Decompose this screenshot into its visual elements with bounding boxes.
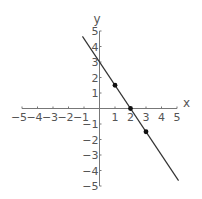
y-tick-label: −2: [82, 134, 98, 147]
y-tick-label: 1: [92, 87, 99, 100]
x-tick-label: −5: [11, 111, 27, 124]
y-tick-label: 5: [92, 25, 99, 38]
y-axis-label: y: [94, 12, 101, 26]
x-tick-label: 4: [158, 111, 165, 124]
y-tick-label: −5: [82, 180, 98, 193]
data-point: [113, 83, 118, 88]
x-tick-label: 5: [174, 111, 181, 124]
y-tick-label: −3: [82, 149, 98, 162]
data-point: [128, 106, 133, 111]
x-tick-label: −4: [26, 111, 42, 124]
line-chart: −5−4−3−2−112345−5−4−3−2−112345 x y: [0, 0, 202, 199]
x-tick-label: 1: [112, 111, 119, 124]
axes: [22, 31, 177, 186]
x-tick-label: −2: [57, 111, 73, 124]
y-tick-label: −1: [82, 118, 98, 131]
x-axis-label: x: [183, 96, 190, 110]
x-tick-label: −3: [42, 111, 58, 124]
y-tick-label: −4: [82, 165, 98, 178]
y-tick-label: 2: [92, 72, 99, 85]
x-tick-label: 3: [143, 111, 150, 124]
data-point: [144, 129, 149, 134]
